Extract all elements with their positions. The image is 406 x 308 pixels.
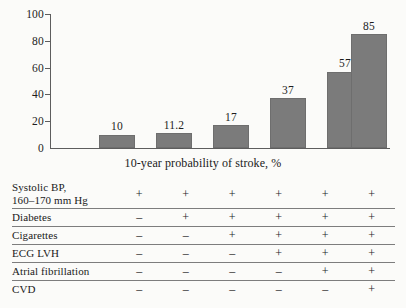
bar-1	[99, 135, 135, 148]
bar-value-6: 85	[363, 20, 375, 32]
bar-group-2: 11.2	[156, 14, 192, 148]
cell-systolic-bp-2: +	[163, 181, 210, 208]
cell-cvd-4: –	[256, 280, 303, 298]
table-row-ecg-lvh: ECG LVH – – – + + +	[12, 244, 395, 262]
cell-cigarettes-6: +	[349, 226, 396, 244]
cell-systolic-bp-6: +	[349, 181, 396, 208]
cell-systolic-bp-3: +	[209, 181, 256, 208]
bar-2	[156, 133, 192, 148]
bar-4	[270, 98, 306, 148]
cell-atrial-fibrillation-5: +	[302, 262, 349, 280]
cell-cvd-2: –	[163, 280, 210, 298]
plot-area: 10 11.2 17 37 57 85	[51, 14, 390, 148]
cell-atrial-fibrillation-6: +	[349, 262, 396, 280]
cell-systolic-bp-4: +	[256, 181, 303, 208]
row-label-ecg-lvh: ECG LVH	[12, 244, 116, 262]
row-label-diabetes: Diabetes	[12, 208, 116, 226]
row-label-atrial-fibrillation: Atrial fibrillation	[12, 262, 116, 280]
cell-diabetes-2: +	[163, 208, 210, 226]
cell-ecg-lvh-1: –	[116, 244, 163, 262]
risk-factor-table: Systolic BP, 160–170 mm Hg + + + + + + D…	[12, 181, 395, 298]
row-label-systolic-bp: Systolic BP, 160–170 mm Hg	[12, 181, 116, 208]
cell-diabetes-3: +	[209, 208, 256, 226]
cell-diabetes-1: –	[116, 208, 163, 226]
cell-cigarettes-1: –	[116, 226, 163, 244]
cell-ecg-lvh-2: –	[163, 244, 210, 262]
cell-cvd-5: –	[302, 280, 349, 298]
x-axis-title: 10-year probability of stroke, %	[0, 156, 406, 171]
cell-ecg-lvh-4: +	[256, 244, 303, 262]
bar-group-1: 10	[99, 14, 135, 148]
bar-group-6: 85	[351, 14, 387, 148]
table-row-cvd: CVD – – – – – +	[12, 280, 395, 298]
y-axis-tick-80	[45, 41, 50, 42]
table-row-systolic-bp: Systolic BP, 160–170 mm Hg + + + + + +	[12, 181, 395, 208]
bar-6	[351, 34, 387, 148]
cell-cigarettes-3: +	[209, 226, 256, 244]
cell-systolic-bp-1: +	[116, 181, 163, 208]
row-label-line-2: 160–170 mm Hg	[12, 194, 88, 206]
cell-cigarettes-2: –	[163, 226, 210, 244]
bar-3	[213, 125, 249, 148]
bar-chart: 100 80 60 40 20 0 10 11.2 17	[0, 0, 406, 176]
y-axis-tick-100	[45, 14, 50, 15]
y-tick-label-20: 20	[32, 115, 44, 127]
row-label-cvd: CVD	[12, 280, 116, 298]
row-label-cigarettes: Cigarettes	[12, 226, 116, 244]
bar-value-4: 37	[282, 84, 294, 96]
bar-value-1: 10	[111, 120, 123, 132]
bar-value-2: 11.2	[164, 119, 185, 131]
y-tick-label-60: 60	[32, 62, 44, 74]
table-row-atrial-fibrillation: Atrial fibrillation – – – – + +	[12, 262, 395, 280]
cell-systolic-bp-5: +	[302, 181, 349, 208]
y-axis-tick-40	[45, 94, 50, 95]
cell-atrial-fibrillation-3: –	[209, 262, 256, 280]
y-tick-label-40: 40	[32, 88, 44, 100]
cell-cvd-3: –	[209, 280, 256, 298]
cell-cvd-1: –	[116, 280, 163, 298]
table-row-diabetes: Diabetes – + + + + +	[12, 208, 395, 226]
cell-ecg-lvh-5: +	[302, 244, 349, 262]
cell-ecg-lvh-3: –	[209, 244, 256, 262]
y-tick-label-100: 100	[26, 8, 44, 20]
bar-group-3: 17	[213, 14, 249, 148]
y-axis-tick-20	[45, 121, 50, 122]
bar-group-4: 37	[270, 14, 306, 148]
bar-value-3: 17	[225, 111, 237, 123]
cell-diabetes-5: +	[302, 208, 349, 226]
cell-cvd-6: +	[349, 280, 396, 298]
bar-value-5: 57	[339, 57, 351, 69]
y-axis-label-group: 100 80 60 40 20 0	[14, 0, 44, 176]
y-tick-label-80: 80	[32, 35, 44, 47]
row-label-line-1: Systolic BP,	[12, 181, 66, 193]
table-row-cigarettes: Cigarettes – – + + + +	[12, 226, 395, 244]
cell-diabetes-6: +	[349, 208, 396, 226]
y-tick-label-0: 0	[38, 142, 44, 154]
stroke-probability-figure: 100 80 60 40 20 0 10 11.2 17	[0, 0, 406, 308]
cell-cigarettes-4: +	[256, 226, 303, 244]
cell-atrial-fibrillation-2: –	[163, 262, 210, 280]
cell-atrial-fibrillation-1: –	[116, 262, 163, 280]
x-axis-line	[50, 148, 390, 149]
cell-ecg-lvh-6: +	[349, 244, 396, 262]
y-axis-tick-60	[45, 68, 50, 69]
cell-atrial-fibrillation-4: –	[256, 262, 303, 280]
cell-cigarettes-5: +	[302, 226, 349, 244]
cell-diabetes-4: +	[256, 208, 303, 226]
